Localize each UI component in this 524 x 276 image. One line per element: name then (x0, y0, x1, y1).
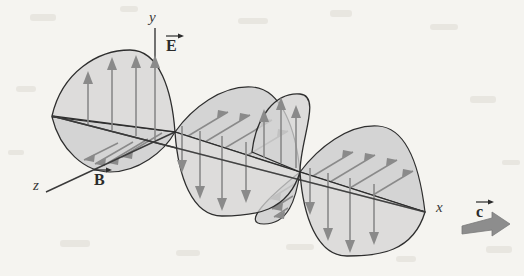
em-wave-figure: y z x E B c (0, 0, 524, 276)
b-field-vector-label: B (94, 166, 105, 188)
x-axis-label: x (436, 200, 443, 215)
e-field-vector-label: E (166, 32, 177, 54)
em-wave-drawing (0, 0, 524, 276)
b-vector-overarrow-icon (94, 166, 105, 173)
e-vector-glyph: E (166, 38, 177, 54)
y-axis-label: y (149, 10, 156, 25)
propagation-arrow (462, 212, 510, 236)
z-axis-label: z (33, 178, 39, 193)
b-vector-glyph: B (94, 172, 105, 188)
e-vector-overarrow-icon (166, 32, 177, 39)
c-vector-overarrow-icon (476, 198, 483, 205)
c-vector-glyph: c (476, 204, 483, 220)
c-velocity-vector-label: c (476, 198, 483, 220)
